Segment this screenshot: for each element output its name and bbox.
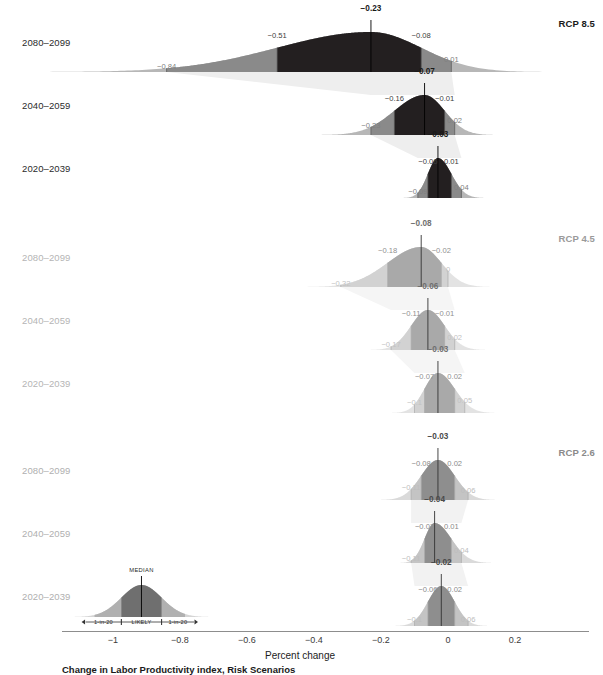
value-label: 0.06	[461, 615, 476, 624]
value-label: −0.11	[402, 309, 421, 318]
value-label: −0.23	[361, 4, 382, 13]
value-label: −0.09	[408, 187, 427, 196]
x-axis-tick-label: −1	[108, 635, 118, 645]
value-label: −0.51	[268, 31, 287, 40]
value-label: 0.04	[454, 183, 469, 192]
period-label: 2040–2059	[22, 528, 70, 539]
value-label: −0.03	[428, 130, 449, 139]
value-label: 0.02	[447, 459, 462, 468]
value-label: −0.02	[432, 246, 451, 255]
value-label: −0.02	[431, 558, 452, 567]
value-label: −0.16	[385, 94, 404, 103]
value-label: −0.07	[415, 522, 434, 531]
value-label: −0.03	[428, 432, 449, 441]
value-label: −0.06	[418, 282, 439, 291]
value-label: −0.23	[361, 121, 380, 130]
legend-low-tail-label: 1-in-20	[94, 619, 113, 625]
value-label: −0.07	[415, 372, 434, 381]
value-label: −0.01	[435, 94, 454, 103]
value-label: −0.84	[157, 62, 176, 71]
period-label: 2020–2039	[22, 163, 70, 174]
value-label: 0	[446, 265, 450, 274]
legend-high-tail-label: 1-in-20	[168, 619, 187, 625]
x-axis-title: Percent change	[265, 650, 335, 661]
value-label: −0.03	[428, 345, 449, 354]
value-label: 0.01	[444, 522, 459, 531]
value-label: −0.06	[418, 157, 437, 166]
period-label: 2040–2059	[22, 315, 70, 326]
value-label: 0.05	[457, 396, 472, 405]
figure-caption: Change in Labor Productivity index, Risk…	[62, 664, 462, 675]
legend-median-label: MEDIAN	[129, 567, 153, 573]
value-label: −0.08	[412, 459, 431, 468]
period-label: 2020–2039	[22, 591, 70, 602]
value-label: 0.02	[447, 116, 462, 125]
period-label: 2020–2039	[22, 378, 70, 389]
value-label: 0.04	[454, 546, 469, 555]
period-label: 2080–2099	[22, 37, 70, 48]
value-label: −0.11	[402, 554, 421, 563]
x-axis-tick-label: 0	[445, 635, 450, 645]
value-label: 0.02	[447, 585, 462, 594]
legend-likely-label: LIKELY	[132, 619, 152, 625]
x-axis-tick-label: −0.4	[305, 635, 323, 645]
x-axis-tick-label: 0.2	[509, 635, 522, 645]
period-label: 2080–2099	[22, 252, 70, 263]
value-label: −0.06	[418, 585, 437, 594]
value-label: −0.1	[407, 398, 422, 407]
x-axis-tick-label: −0.8	[171, 635, 189, 645]
value-label: −0.07	[414, 67, 435, 76]
x-axis-line	[62, 631, 589, 632]
period-label: 2040–2059	[22, 100, 70, 111]
value-label: −0.11	[402, 483, 421, 492]
value-label: 0.01	[444, 157, 459, 166]
x-axis-tick-label: −0.2	[372, 635, 390, 645]
value-label: −0.32	[331, 279, 350, 288]
value-label: −0.01	[435, 309, 454, 318]
value-label: 0.06	[461, 486, 476, 495]
value-label: −0.17	[381, 340, 400, 349]
value-label: −0.18	[378, 246, 397, 255]
value-label: 0.02	[447, 333, 462, 342]
value-label: −0.04	[424, 495, 445, 504]
value-label: 0.01	[444, 55, 459, 64]
x-axis-tick-label: −0.6	[238, 635, 256, 645]
value-label: −0.1	[407, 615, 422, 624]
value-label: −0.08	[411, 219, 432, 228]
value-label: 0.02	[447, 372, 462, 381]
period-label: 2080–2099	[22, 465, 70, 476]
value-label: −0.08	[412, 31, 431, 40]
